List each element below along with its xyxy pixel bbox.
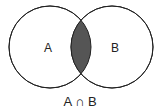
intersection-label: A ∩ B — [63, 94, 96, 109]
set-b-label: B — [111, 41, 119, 55]
venn-diagram: A B A ∩ B — [0, 0, 154, 110]
set-a-label: A — [44, 41, 52, 55]
